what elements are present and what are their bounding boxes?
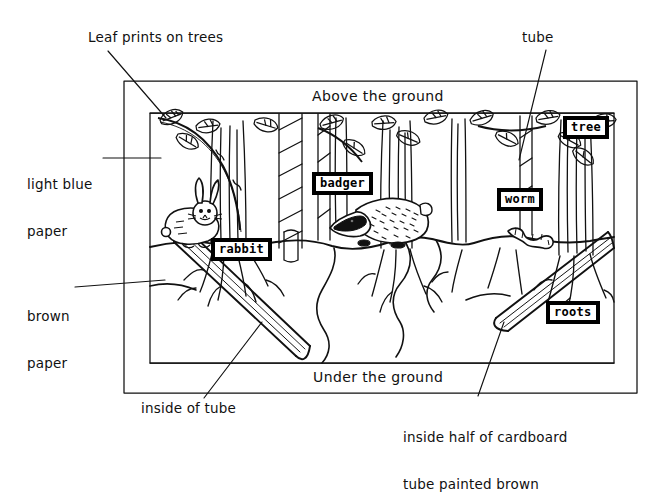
annotation-inside-half-line1: inside half of cardboard [403,430,568,446]
soil-contours [150,240,510,363]
annotation-leaf-prints: Leaf prints on trees [88,30,223,46]
tree-trunk-3 [559,120,593,255]
badger-figure [330,198,432,248]
leaf [253,115,280,134]
annotation-brown-paper-line1: brown [27,309,70,325]
leaf [423,108,450,127]
annotation-light-blue-paper: light blue paper [27,146,92,270]
vertical-tube-left [279,114,302,248]
tag-tree-label: tree [566,119,606,136]
leader-inside-half [478,322,504,396]
annotation-brown-paper: brown paper [27,278,70,402]
tag-roots-label: roots [549,304,597,321]
tag-worm[interactable]: worm [497,188,543,211]
branch-right [478,126,546,131]
leaf [195,117,221,134]
leaf [372,115,397,131]
leaf [468,107,495,128]
tag-badger[interactable]: badger [312,172,373,195]
annotation-inside-of-tube: inside of tube [141,401,236,417]
leaf [535,108,561,126]
annotation-light-blue-paper-line1: light blue [27,177,92,193]
leader-leaf-prints [108,51,166,118]
annotation-inside-half-line2: tube painted brown [403,477,568,493]
tag-rabbit[interactable]: rabbit [211,238,272,261]
band-above-ground-label: Above the ground [312,88,444,104]
tag-worm-label: worm [500,191,540,208]
annotation-tube: tube [522,30,554,46]
leader-inside-tube [204,322,262,398]
tag-roots[interactable]: roots [546,301,600,324]
tag-badger-label: badger [315,175,370,192]
leaf [341,136,368,160]
tag-tree[interactable]: tree [563,116,609,139]
annotation-inside-half-cardboard: inside half of cardboard tube painted br… [403,399,568,496]
band-under-ground-label: Under the ground [313,369,443,385]
annotation-brown-paper-line2: paper [27,356,70,372]
tag-rabbit-label: rabbit [214,241,269,258]
annotation-light-blue-paper-line2: paper [27,224,92,240]
